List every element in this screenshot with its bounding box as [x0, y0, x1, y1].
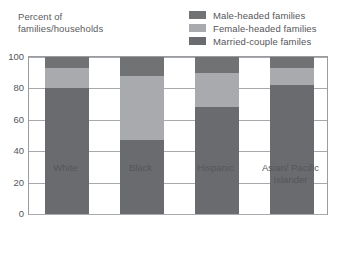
legend-item-married-couple-families: Married-couple familes — [189, 35, 317, 48]
bar-segment — [45, 57, 89, 68]
legend-swatch-icon — [189, 24, 206, 32]
plot-area: 020406080100 — [28, 56, 328, 215]
bar-stack — [120, 57, 164, 214]
bar-stack — [45, 57, 89, 214]
bar-segment — [45, 68, 89, 88]
y-axis-tick-label: 80 — [13, 83, 24, 93]
y-axis-title: Percent of families/households — [18, 11, 103, 34]
legend-item-label: Married-couple familes — [213, 36, 311, 47]
y-axis-tick-label: 0 — [19, 209, 24, 219]
bar-segment — [45, 88, 89, 214]
bar-segment — [195, 73, 239, 108]
bar-stack — [270, 57, 314, 214]
legend-swatch-icon — [189, 37, 206, 45]
stacked-bar-chart: Percent of families/households Male-head… — [0, 0, 346, 260]
y-axis-tick-label: 100 — [8, 52, 24, 62]
legend-item-female-headed-families: Female-headed families — [189, 22, 317, 35]
legend-item-label: Female-headed families — [213, 23, 317, 34]
gridline: 0 — [29, 214, 327, 215]
bar-segment — [195, 57, 239, 73]
y-axis-tick-label: 20 — [13, 178, 24, 188]
bar-segment — [120, 140, 164, 214]
legend-swatch-icon — [189, 11, 206, 19]
y-axis-tick-label: 40 — [13, 146, 24, 156]
x-axis-tick-label: Hispanic — [178, 162, 253, 174]
x-axis-tick-label: Black — [103, 162, 178, 174]
bar-segment — [120, 76, 164, 140]
bar-segment — [120, 57, 164, 76]
chart-legend: Male-headed families Female-headed famil… — [189, 9, 317, 48]
bar-segment — [270, 85, 314, 214]
bar-segment — [195, 107, 239, 214]
bars-layer — [29, 57, 327, 214]
y-axis-tick-label: 60 — [13, 115, 24, 125]
bar-stack — [195, 57, 239, 214]
legend-item-label: Male-headed families — [213, 10, 305, 21]
x-axis-tick-label: White — [28, 162, 103, 174]
bar-segment — [270, 68, 314, 85]
bar-segment — [270, 57, 314, 68]
legend-item-male-headed-families: Male-headed families — [189, 9, 317, 22]
x-axis-tick-label: Asian/ Pacific Islander — [253, 162, 328, 185]
